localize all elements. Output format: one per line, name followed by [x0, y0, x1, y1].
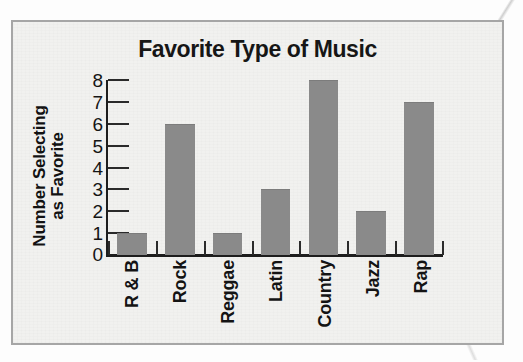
x-axis-label-slot: Rap [397, 260, 445, 345]
x-axis-label: Rock [170, 260, 191, 303]
x-axis-label: R & B [122, 260, 143, 308]
x-axis-slot-tick [108, 241, 110, 255]
scan-artifact-top-right [481, 0, 523, 20]
x-axis-label-slot: Country [301, 260, 349, 345]
y-axis-title-line-2: as Favorite [49, 105, 67, 246]
bar [404, 102, 434, 255]
y-axis-title: Number Selecting as Favorite [23, 66, 75, 286]
y-axis-title-text: Number Selecting as Favorite [31, 105, 68, 246]
bar [309, 80, 339, 255]
x-axis-slot-tick [204, 241, 206, 255]
plot-area: 876543210 [106, 80, 443, 255]
bar-slot [252, 80, 300, 255]
x-axis-label-slot: R & B [108, 260, 156, 345]
bar-slot [395, 80, 443, 255]
bar-slot [347, 80, 395, 255]
x-axis-label: Reggae [218, 260, 239, 324]
y-axis-tick-label: 3 [92, 180, 103, 199]
y-axis-tick-label: 1 [92, 224, 103, 243]
y-axis-tick-label: 8 [92, 71, 103, 90]
bar-slot [108, 80, 156, 255]
x-axis-label: Rap [410, 260, 431, 293]
y-axis-tick-label: 5 [92, 136, 103, 155]
x-axis-slot-tick [299, 241, 301, 255]
x-axis-label-slot: Rock [156, 260, 204, 345]
bar [213, 233, 243, 255]
x-axis-labels: R & BRockReggaeLatinCountryJazzRap [108, 260, 445, 345]
bar [261, 189, 291, 255]
bar-slot [156, 80, 204, 255]
x-axis-slot-tick [347, 241, 349, 255]
chart-panel: Favorite Type of Music Number Selecting … [11, 20, 504, 345]
y-axis-title-line-1: Number Selecting [31, 105, 49, 246]
x-axis-label-slot: Jazz [349, 260, 397, 345]
bar [117, 233, 147, 255]
chart-screenshot: Favorite Type of Music Number Selecting … [0, 0, 523, 362]
bar [165, 124, 195, 255]
bar-series [108, 80, 443, 255]
x-axis-label-slot: Latin [252, 260, 300, 345]
x-axis-label: Country [314, 260, 335, 328]
bar-slot [204, 80, 252, 255]
bar-slot [299, 80, 347, 255]
chart-title: Favorite Type of Music [13, 36, 502, 63]
x-axis-slot-tick [156, 241, 158, 255]
x-axis-label: Jazz [362, 260, 383, 297]
x-axis-label: Latin [266, 260, 287, 302]
x-axis-slot-tick [395, 241, 397, 255]
x-axis-label-slot: Reggae [204, 260, 252, 345]
y-axis-tick-label: 4 [92, 158, 103, 177]
y-axis-tick-label: 6 [92, 114, 103, 133]
y-axis-tick-label: 2 [92, 202, 103, 221]
y-axis-tick-label: 0 [92, 245, 103, 264]
bar [356, 211, 386, 255]
x-axis-slot-tick [252, 241, 254, 255]
y-axis-tick-label: 7 [92, 92, 103, 111]
x-axis-slot-tick [442, 241, 444, 255]
